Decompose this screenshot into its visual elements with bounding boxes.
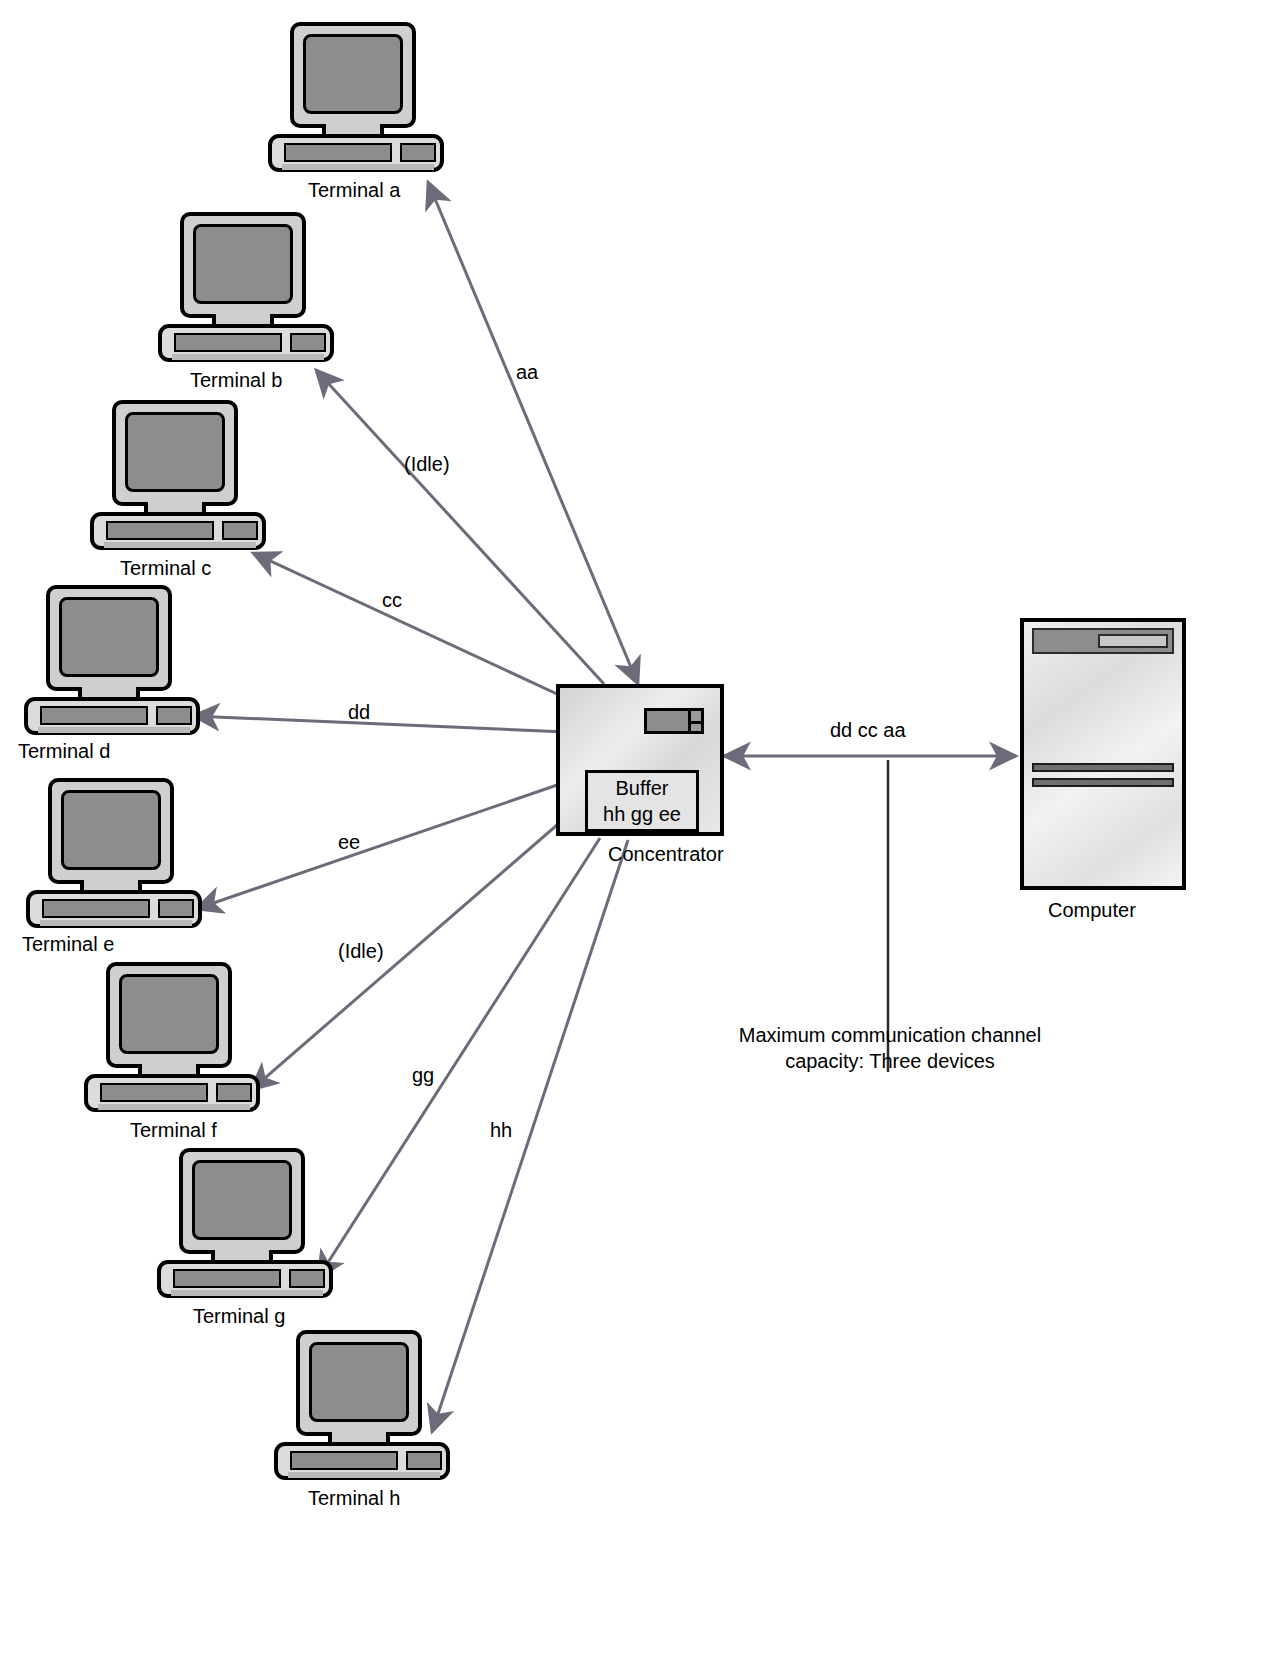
disk-drive-icon xyxy=(644,708,704,734)
keyboard-keys-icon xyxy=(284,143,392,162)
terminal-icon xyxy=(88,400,268,550)
link-terminal-b xyxy=(316,370,604,684)
keyboard-lip-icon xyxy=(98,1104,250,1110)
edge-label-terminal-a: aa xyxy=(516,360,538,384)
node-terminal-b[interactable]: Terminal b xyxy=(156,212,336,362)
screen-icon xyxy=(119,974,219,1054)
caption-terminal-b: Terminal b xyxy=(190,368,282,392)
keyboard-lip-icon xyxy=(172,354,324,360)
monitor-icon xyxy=(290,22,416,128)
screen-icon xyxy=(59,597,159,677)
node-terminal-d[interactable]: Terminal d xyxy=(22,585,202,735)
terminal-icon xyxy=(24,778,204,928)
buffer-title: Buffer xyxy=(616,776,669,801)
node-terminal-g[interactable]: Terminal g xyxy=(155,1148,335,1298)
edge-label-terminal-f: (Idle) xyxy=(338,939,384,963)
caption-terminal-c: Terminal c xyxy=(120,556,211,580)
monitor-icon xyxy=(179,1148,305,1254)
keypad-icon xyxy=(400,143,436,162)
keyboard-icon xyxy=(274,1442,450,1480)
keyboard-icon xyxy=(158,324,334,362)
monitor-icon xyxy=(112,400,238,506)
link-terminal-a xyxy=(428,182,638,684)
keyboard-lip-icon xyxy=(104,542,256,548)
edge-label-terminal-d: dd xyxy=(348,700,370,724)
keypad-icon xyxy=(216,1083,252,1102)
buffer-contents: hh gg ee xyxy=(603,802,681,827)
terminal-icon xyxy=(266,22,446,172)
caption-terminal-g: Terminal g xyxy=(193,1304,285,1328)
computer-slot-lower-icon xyxy=(1032,778,1174,787)
node-terminal-a[interactable]: Terminal a xyxy=(266,22,446,172)
keyboard-keys-icon xyxy=(173,1269,281,1288)
caption-terminal-h: Terminal h xyxy=(308,1486,400,1510)
keyboard-lip-icon xyxy=(40,920,192,926)
node-terminal-e[interactable]: Terminal e xyxy=(24,778,204,928)
keypad-icon xyxy=(290,333,326,352)
edge-label-trunk: dd cc aa xyxy=(830,718,906,742)
caption-terminal-e: Terminal e xyxy=(22,932,114,956)
screen-icon xyxy=(125,412,225,492)
keyboard-lip-icon xyxy=(282,164,434,170)
terminal-icon xyxy=(82,962,262,1112)
keyboard-icon xyxy=(268,134,444,172)
screen-icon xyxy=(309,1342,409,1422)
channel-capacity-note: Maximum communication channel capacity: … xyxy=(700,1022,1080,1074)
keyboard-lip-icon xyxy=(288,1472,440,1478)
keyboard-keys-icon xyxy=(40,706,148,725)
screen-icon xyxy=(61,790,161,870)
keypad-icon xyxy=(406,1451,442,1470)
keyboard-keys-icon xyxy=(42,899,150,918)
computer-tower-icon xyxy=(1020,618,1186,890)
keypad-icon xyxy=(158,899,194,918)
drive-slot-icon xyxy=(688,711,701,731)
caption-terminal-d: Terminal d xyxy=(18,739,110,763)
screen-icon xyxy=(193,224,293,304)
link-terminal-d xyxy=(193,716,566,732)
link-terminal-g xyxy=(318,838,600,1278)
link-terminal-f xyxy=(251,812,572,1090)
node-terminal-h[interactable]: Terminal h xyxy=(272,1330,452,1480)
node-computer[interactable]: Computer xyxy=(1020,618,1186,890)
edge-label-terminal-b: (Idle) xyxy=(404,452,450,476)
terminal-icon xyxy=(22,585,202,735)
monitor-icon xyxy=(48,778,174,884)
buffer-box: Buffer hh gg ee xyxy=(585,770,699,832)
monitor-icon xyxy=(180,212,306,318)
keyboard-lip-icon xyxy=(38,727,190,733)
screen-icon xyxy=(303,34,403,114)
caption-concentrator: Concentrator xyxy=(608,842,724,866)
edge-label-terminal-g: gg xyxy=(412,1063,434,1087)
terminal-icon xyxy=(156,212,336,362)
edge-label-terminal-e: ee xyxy=(338,830,360,854)
network-diagram: Terminal a Terminal b xyxy=(0,0,1286,1658)
node-terminal-f[interactable]: Terminal f xyxy=(82,962,262,1112)
terminal-icon xyxy=(155,1148,335,1298)
keyboard-keys-icon xyxy=(106,521,214,540)
keyboard-keys-icon xyxy=(100,1083,208,1102)
keyboard-icon xyxy=(157,1260,333,1298)
node-concentrator[interactable]: Buffer hh gg ee Concentrator xyxy=(556,684,724,836)
keyboard-lip-icon xyxy=(171,1290,323,1296)
node-terminal-c[interactable]: Terminal c xyxy=(88,400,268,550)
screen-icon xyxy=(192,1160,292,1240)
channel-capacity-note-line1: Maximum communication channel xyxy=(700,1022,1080,1048)
keypad-icon xyxy=(156,706,192,725)
edge-label-terminal-h: hh xyxy=(490,1118,512,1142)
link-terminal-c xyxy=(253,553,570,700)
monitor-icon xyxy=(296,1330,422,1436)
concentrator-icon: Buffer hh gg ee xyxy=(556,684,724,836)
computer-top-panel-icon xyxy=(1032,628,1174,654)
keypad-icon xyxy=(222,521,258,540)
caption-computer: Computer xyxy=(1048,898,1136,922)
keyboard-keys-icon xyxy=(290,1451,398,1470)
keyboard-icon xyxy=(84,1074,260,1112)
keyboard-icon xyxy=(26,890,202,928)
keyboard-keys-icon xyxy=(174,333,282,352)
edge-label-terminal-c: cc xyxy=(382,588,402,612)
keyboard-icon xyxy=(24,697,200,735)
monitor-icon xyxy=(46,585,172,691)
caption-terminal-a: Terminal a xyxy=(308,178,400,202)
channel-capacity-note-line2: capacity: Three devices xyxy=(700,1048,1080,1074)
caption-terminal-f: Terminal f xyxy=(130,1118,217,1142)
